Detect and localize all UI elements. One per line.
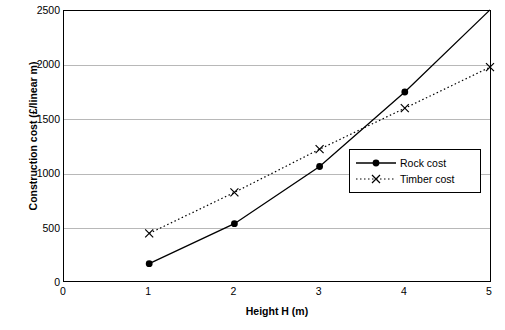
legend-label-timber-cost: Timber cost (398, 173, 454, 185)
rock-cost-point-4 (401, 89, 408, 96)
x-tick-1: 1 (133, 285, 163, 297)
legend-item-timber-cost: Timber cost (354, 171, 476, 187)
x-tick-0: 0 (48, 285, 78, 297)
timber-cost-point-3 (316, 145, 324, 153)
x-tick-3: 3 (304, 285, 334, 297)
timber-cost-point-5 (486, 63, 494, 71)
rock-cost-point-3 (316, 163, 323, 170)
x-axis-tick-labels: 0 1 2 3 4 5 (63, 285, 491, 299)
legend-sample-rock-cost (354, 156, 398, 170)
timber-cost-point-1 (145, 229, 153, 237)
series-rock-cost (146, 10, 490, 267)
legend-item-rock-cost: Rock cost (354, 155, 476, 171)
rock-cost-point-1 (146, 260, 153, 267)
rock-cost-line (149, 10, 490, 264)
plot-area: Rock cost Timber cost (63, 10, 491, 282)
rock-cost-point-2 (231, 220, 238, 227)
legend-label-rock-cost: Rock cost (398, 157, 446, 169)
timber-cost-point-4 (401, 104, 409, 112)
y-axis-title: Construction cost (£/linear m) (27, 26, 39, 246)
legend-sample-timber-cost (354, 172, 398, 186)
x-axis-title: Height H (m) (63, 305, 491, 317)
chart-container: 0 500 1000 1500 2000 2500 (0, 0, 505, 330)
timber-cost-point-2 (230, 188, 238, 196)
series-svg (64, 11, 490, 281)
y-tick-5: 2500 (4, 5, 60, 15)
legend: Rock cost Timber cost (349, 149, 481, 193)
x-tick-2: 2 (218, 285, 248, 297)
x-tick-4: 4 (389, 285, 419, 297)
x-tick-5: 5 (474, 285, 504, 297)
